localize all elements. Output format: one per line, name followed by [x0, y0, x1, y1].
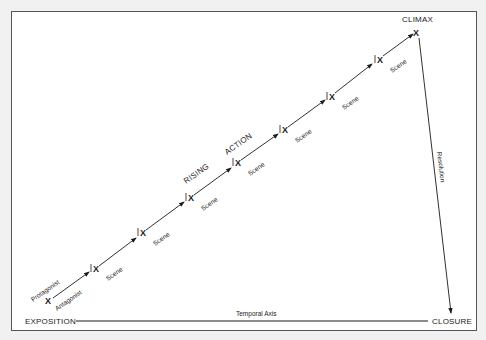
scene-marker-x: X — [93, 264, 99, 274]
scene-marker-x: X — [329, 92, 335, 102]
scene-label: Scene — [200, 195, 219, 212]
resolution-label: Resolution — [436, 151, 447, 183]
exposition-label: EXPOSITION — [25, 317, 76, 326]
scene-label: Scene — [247, 160, 266, 177]
scene-marker-x: X — [188, 193, 194, 203]
climax-label: CLIMAX — [402, 15, 433, 24]
closure-label: CLOSURE — [432, 317, 472, 326]
scene-label: Scene — [389, 57, 408, 74]
plot-structure-diagram: EXPOSITION CLOSURE Temporal Axis X X X X… — [0, 0, 486, 340]
action-label: ACTION — [223, 131, 254, 156]
temporal-axis-label: Temporal Axis — [236, 310, 277, 318]
antagonist-label: Antagonist — [54, 288, 84, 312]
climax-marker-x: X — [413, 28, 419, 38]
scene-marker-x: X — [377, 55, 383, 65]
scene-marker-x: X — [140, 228, 146, 238]
scene-marker-x: X — [235, 158, 241, 168]
scene-label: Scene — [341, 94, 360, 111]
scene-label: Scene — [294, 127, 313, 144]
scene-label: Scene — [152, 230, 171, 247]
scene-label: Scene — [105, 265, 124, 282]
scene-marker-x: X — [282, 125, 288, 135]
start-marker-x: X — [45, 296, 51, 306]
rising-label: RISING — [182, 162, 211, 186]
